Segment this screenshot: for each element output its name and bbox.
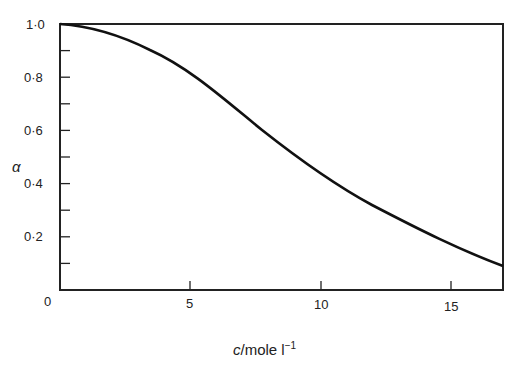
x-axis-label-superscript: −1 (285, 340, 297, 351)
x-tick-label-15: 15 (444, 299, 458, 314)
y-tick-label-1.0: 1·0 (26, 17, 45, 32)
y-tick-label-0.8: 0·8 (24, 70, 43, 85)
y-axis-label: α (12, 158, 21, 175)
x-tick-label-10: 10 (314, 297, 328, 312)
plot-frame (60, 24, 503, 290)
y-tick-label-0.2: 0·2 (24, 229, 43, 244)
y-tick-label-0.4: 0·4 (24, 176, 43, 191)
alpha-curve (60, 24, 503, 266)
x-ticks (190, 281, 451, 290)
origin-label: 0 (44, 294, 51, 309)
x-axis-label: c/mole l−1 (233, 340, 297, 358)
chart: 1·0 0·8 0·6 0·4 0·2 0 α 5 10 15 c/mole l… (0, 0, 517, 373)
y-ticks (60, 51, 70, 264)
y-tick-label-0.6: 0·6 (24, 123, 43, 138)
x-tick-label-5: 5 (186, 296, 193, 311)
